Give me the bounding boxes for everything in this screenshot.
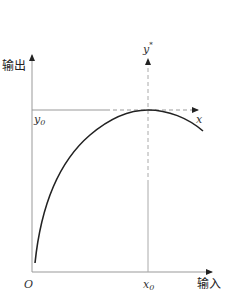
- x-axis-label: 输入: [197, 276, 221, 291]
- x-reference-label: x: [196, 113, 203, 126]
- output-curve: [35, 110, 203, 263]
- x0-label: x0: [143, 278, 154, 292]
- y-star-label: y*: [142, 41, 153, 56]
- origin-label: O: [24, 278, 33, 291]
- y-axis-label: 输出: [2, 58, 26, 73]
- diagram-canvas: 输出 输入 O y0 x0 x y*: [0, 0, 230, 302]
- y0-label: y0: [33, 113, 45, 127]
